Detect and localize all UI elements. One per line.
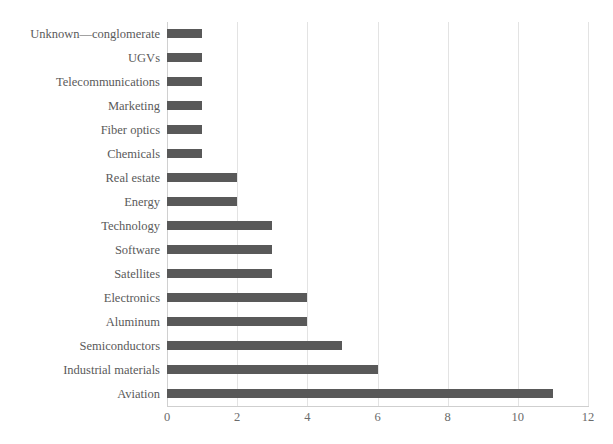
bar: [167, 29, 202, 38]
bar: [167, 125, 202, 134]
bar-category-label: Satellites: [0, 262, 160, 286]
bar-category-label: Energy: [0, 190, 160, 214]
bar-row: UGVs: [0, 46, 613, 70]
bar-category-label: Real estate: [0, 166, 160, 190]
bar: [167, 101, 202, 110]
bar-row: Technology: [0, 214, 613, 238]
bar-category-label: Aviation: [0, 382, 160, 406]
bar-row: Energy: [0, 190, 613, 214]
bar-row: Unknown—conglomerate: [0, 22, 613, 46]
bar-row: Industrial materials: [0, 358, 613, 382]
bar: [167, 269, 272, 278]
bar-category-label: Marketing: [0, 94, 160, 118]
bar-category-label: Software: [0, 238, 160, 262]
bar-category-label: Semiconductors: [0, 334, 160, 358]
x-axis-tick-label: 6: [358, 410, 398, 425]
bar-row: Fiber optics: [0, 118, 613, 142]
bar: [167, 53, 202, 62]
bar-category-label: Industrial materials: [0, 358, 160, 382]
bar: [167, 221, 272, 230]
bar-category-label: Technology: [0, 214, 160, 238]
x-axis-line: [167, 406, 589, 407]
bar-category-label: UGVs: [0, 46, 160, 70]
x-axis-tick-label: 10: [498, 410, 538, 425]
x-axis-tick-label: 8: [428, 410, 468, 425]
bar-row: Satellites: [0, 262, 613, 286]
bar: [167, 173, 237, 182]
bar-row: Chemicals: [0, 142, 613, 166]
x-axis-tick-label: 4: [287, 410, 327, 425]
bar-row: Software: [0, 238, 613, 262]
bar-category-label: Unknown—conglomerate: [0, 22, 160, 46]
bar-row: Semiconductors: [0, 334, 613, 358]
bar: [167, 341, 342, 350]
bar: [167, 77, 202, 86]
bar-row: Electronics: [0, 286, 613, 310]
bar: [167, 317, 307, 326]
x-axis-tick-label: 12: [568, 410, 608, 425]
bar-row: Aluminum: [0, 310, 613, 334]
bar: [167, 293, 307, 302]
bar: [167, 149, 202, 158]
bar-row: Marketing: [0, 94, 613, 118]
bar-category-label: Telecommunications: [0, 70, 160, 94]
bar-chart: Unknown—conglomerateUGVsTelecommunicatio…: [0, 0, 613, 444]
bar-category-label: Chemicals: [0, 142, 160, 166]
bar-row: Aviation: [0, 382, 613, 406]
bar: [167, 197, 237, 206]
chart-title: [0, 0, 613, 5]
bar-row: Telecommunications: [0, 70, 613, 94]
x-axis-tick-label: 0: [147, 410, 187, 425]
bar: [167, 389, 553, 398]
bar-category-label: Electronics: [0, 286, 160, 310]
bar-category-label: Aluminum: [0, 310, 160, 334]
bar: [167, 365, 378, 374]
bar-row: Real estate: [0, 166, 613, 190]
bar-category-label: Fiber optics: [0, 118, 160, 142]
bar: [167, 245, 272, 254]
x-axis-tick-label: 2: [217, 410, 257, 425]
